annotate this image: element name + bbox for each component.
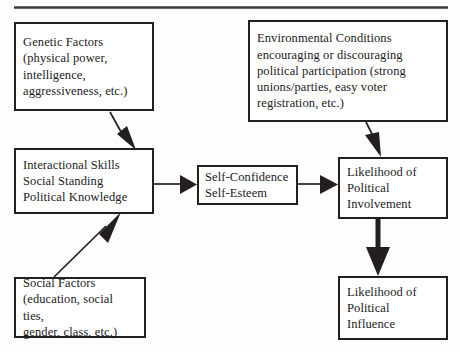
node-social-factors[interactable]: Social Factors (education, social ties, … <box>14 277 146 338</box>
node-self-confidence[interactable]: Self-Confidence Self-Esteem <box>197 165 298 205</box>
node-social-factors-label: Social Factors (education, social ties, … <box>16 275 144 340</box>
edge-social-to-interactional <box>54 212 121 277</box>
edge-environmental-to-involvement <box>365 122 381 157</box>
node-genetic-factors[interactable]: Genetic Factors (physical power, intelli… <box>14 22 154 111</box>
node-interactional-skills-label: Interactional Skills Social Standing Pol… <box>16 157 152 206</box>
node-environmental-conditions-label: Environmental Conditions encouraging or … <box>250 30 446 111</box>
node-genetic-factors-label: Genetic Factors (physical power, intelli… <box>16 34 152 99</box>
diagram-canvas: Genetic Factors (physical power, intelli… <box>0 0 460 352</box>
node-political-influence[interactable]: Likelihood of Political Influence <box>338 276 448 340</box>
node-political-influence-label: Likelihood of Political Influence <box>340 284 446 333</box>
node-environmental-conditions[interactable]: Environmental Conditions encouraging or … <box>248 20 448 122</box>
edge-genetic-to-interactional <box>110 112 136 150</box>
node-interactional-skills[interactable]: Interactional Skills Social Standing Pol… <box>14 148 154 214</box>
node-political-involvement[interactable]: Likelihood of Political Involvement <box>338 157 448 219</box>
edge-involvement-to-influence <box>366 219 390 276</box>
node-political-involvement-label: Likelihood of Political Involvement <box>340 164 446 213</box>
edge-interactional-to-selfconcept <box>154 175 197 194</box>
node-self-confidence-label: Self-Confidence Self-Esteem <box>199 169 296 201</box>
edge-selfconcept-to-involvement <box>298 175 338 194</box>
